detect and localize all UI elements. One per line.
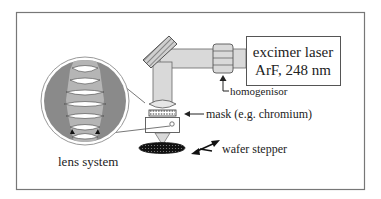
vertical-beam: [153, 62, 172, 102]
laser-line-2: ArF, 248 nm: [255, 61, 331, 79]
lens-system-label: lens system: [58, 155, 118, 168]
homogeniser-icon: [213, 44, 233, 73]
wafer: [139, 143, 185, 154]
laser-line-1: excimer laser: [253, 43, 333, 61]
homogenisor-label: homogenisor: [230, 86, 287, 97]
mask-label: mask (e.g. chromium): [206, 108, 312, 120]
lithography-diagram: [0, 0, 381, 199]
lens-system-magnified: [41, 57, 129, 145]
wafer-stepper-label: wafer stepper: [222, 143, 287, 155]
excimer-laser-label: excimer laser ArF, 248 nm: [246, 36, 340, 85]
mask-icon: [149, 110, 176, 116]
